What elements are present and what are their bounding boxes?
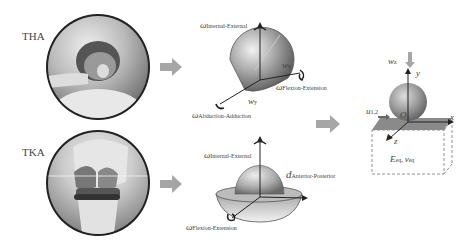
material-properties-label: Eeq, νeq	[390, 154, 414, 164]
hip-implant-icon	[48, 16, 148, 118]
tka-internal-external-label: ωInternal-External	[204, 150, 251, 160]
tka-flexion-extension-label: ωFlexion-Extension	[186, 222, 237, 232]
displacement-u-label: u1,2	[366, 106, 378, 116]
load-wz-label: wz	[388, 56, 397, 66]
tha-wy-label: wy	[248, 96, 257, 106]
z-axis-label: z	[394, 136, 398, 146]
tha-flexion-extension-label: ωFlexion-Extension	[276, 82, 327, 92]
tka-kinematic-model: ωInternal-External dAnterior-Posterior ω…	[200, 122, 340, 244]
knee-implant-image	[46, 130, 150, 236]
tha-abduction-adduction-label: ωAbduction-Adduction	[192, 110, 251, 120]
tha-wx-label: wx	[282, 60, 291, 70]
y-axis-label: y	[416, 68, 420, 78]
contact-model: wz y x z O u1,2 Eeq, νeq	[340, 50, 472, 210]
tka-anterior-posterior-label: dAnterior-Posterior	[286, 168, 335, 180]
x-axis-label: x	[450, 112, 454, 122]
tha-internal-external-label: ωInternal-External	[200, 20, 247, 30]
tha-label: THA	[22, 30, 45, 42]
knee-implant-icon	[48, 132, 148, 234]
tka-label: TKA	[22, 146, 45, 158]
hip-implant-image	[46, 14, 150, 120]
tha-kinematic-model: ωInternal-External wx ωFlexion-Extension…	[200, 0, 340, 122]
origin-label: O	[400, 110, 407, 120]
